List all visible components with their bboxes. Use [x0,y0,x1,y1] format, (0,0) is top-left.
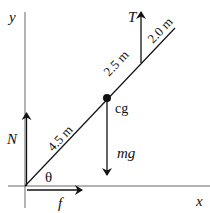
segment-label-upper: 2.0 m [144,14,175,46]
y-axis-label: y [7,9,16,25]
friction-force-label: f [58,195,64,211]
angle-label: θ [45,169,52,185]
weight-force-label: mg [117,145,136,161]
free-body-diagram: y x 4.5 m 2.5 m 2.0 m θ cg N f mg T [0,0,210,213]
normal-force-label: N [6,131,18,147]
tension-force-label: T [128,9,138,25]
cg-label: cg [115,101,128,116]
beam [25,28,175,186]
segment-label-middle: 2.5 m [100,47,131,79]
x-axis-label: x [195,193,203,209]
